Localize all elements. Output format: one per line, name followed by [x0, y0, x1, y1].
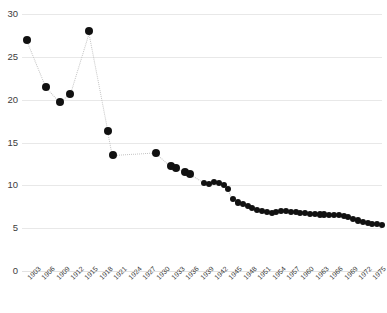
x-axis-tick-label: 1957 — [285, 265, 301, 281]
x-axis-tick-label: 1969 — [343, 265, 359, 281]
x-axis-tick-label: 1942 — [213, 265, 229, 281]
x-axis-tick-label: 1915 — [83, 265, 99, 281]
x-axis-tick-label: 1930 — [155, 265, 171, 281]
x-axis-tick-label: 1939 — [199, 265, 215, 281]
x-axis-tick-label: 1924 — [127, 265, 143, 281]
x-axis-tick-label: 1921 — [112, 265, 128, 281]
x-axis-tick-label: 1933 — [170, 265, 186, 281]
x-axis-tick-label: 1960 — [299, 265, 315, 281]
x-axis-tick-label: 1906 — [40, 265, 56, 281]
x-axis-tick-label: 1954 — [271, 265, 287, 281]
x-axis-tick-label: 1963 — [314, 265, 330, 281]
x-axis-tick-label: 1927 — [141, 265, 157, 281]
x-axis-tick-label: 1975 — [371, 265, 387, 281]
x-axis-tick-label: 1936 — [184, 265, 200, 281]
x-axis-tick-label: 1951 — [256, 265, 272, 281]
x-axis-tick-label: 1912 — [69, 265, 85, 281]
x-axis-tick-label: 1909 — [55, 265, 71, 281]
x-axis-tick-label: 1948 — [242, 265, 258, 281]
x-axis-tick-label: 1918 — [98, 265, 114, 281]
x-axis-tick-label: 1903 — [26, 265, 42, 281]
x-axis-tick-label: 1966 — [328, 265, 344, 281]
x-axis-tick-label: 1972 — [357, 265, 373, 281]
x-axis-tick-label: 1945 — [227, 265, 243, 281]
